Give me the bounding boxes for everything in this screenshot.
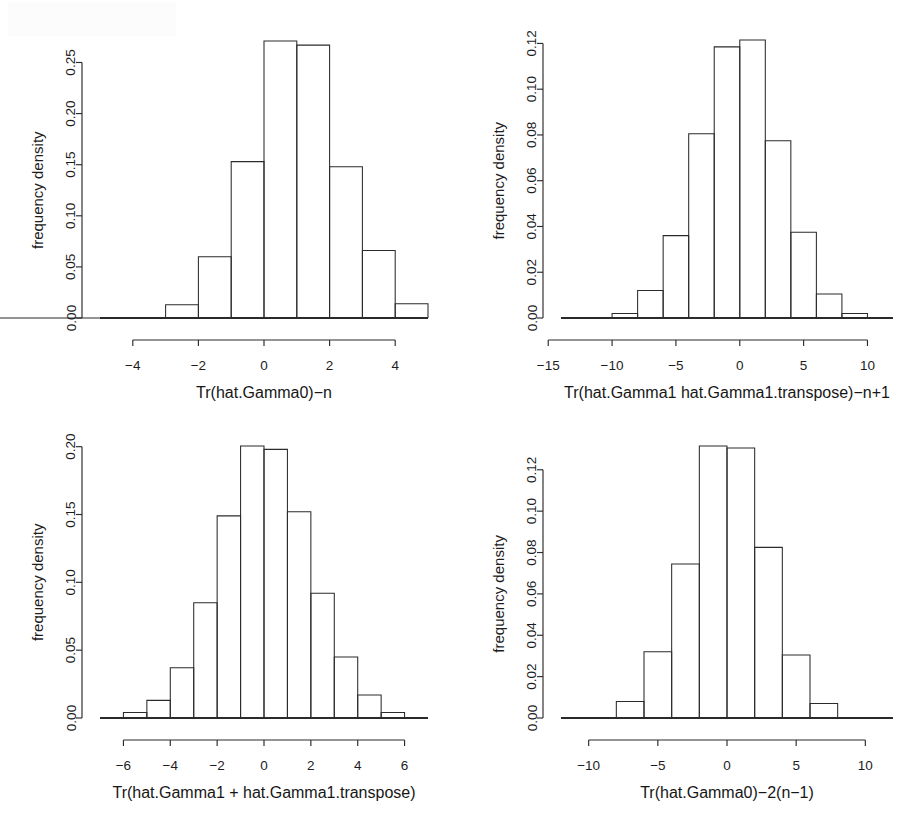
histogram-bars [561, 446, 893, 718]
x-axis-title: Tr(hat.Gamma1 hat.Gamma1.transpose)−n+1 [564, 384, 890, 401]
x-axis-tick-label: 0 [260, 758, 268, 773]
y-axis-tick-label: 0.20 [64, 100, 79, 126]
x-axis-title: Tr(hat.Gamma1 + hat.Gamma1.transpose) [112, 784, 415, 801]
x-axis: −10−50510 [577, 740, 873, 773]
y-axis-tick-label: 0.08 [525, 539, 540, 565]
x-axis-tick-label: 5 [800, 358, 808, 373]
histogram-bar [362, 251, 395, 318]
histogram-bar [166, 305, 199, 318]
y-axis: 0.000.020.040.060.080.100.12 [525, 457, 544, 731]
y-axis-tick-label: 0.15 [64, 501, 79, 527]
x-axis-tick-label: −15 [537, 358, 560, 373]
x-axis-tick-label: −4 [163, 758, 179, 773]
x-axis-tick-label: −5 [668, 358, 683, 373]
histogram-bar [727, 448, 755, 718]
histogram-bar [616, 701, 644, 718]
histogram-bar [358, 695, 381, 718]
histogram-bar [395, 304, 428, 318]
histogram-panel-top-right: 0.000.020.040.060.080.100.12frequency de… [459, 0, 918, 411]
plot-canvas-bottom-right: 0.000.020.040.060.080.100.12frequency de… [459, 411, 918, 822]
histogram-bar [663, 236, 689, 318]
histogram-bar [194, 603, 217, 718]
x-axis-tick-label: −10 [601, 358, 624, 373]
plot-canvas-top-right: 0.000.020.040.060.080.100.12frequency de… [459, 0, 918, 411]
y-axis-title: frequency density [30, 523, 47, 641]
histogram-bar [782, 655, 810, 718]
x-axis-tick-label: 2 [307, 758, 315, 773]
y-axis-tick-label: 0.12 [525, 457, 540, 483]
x-axis-tick-label: −6 [116, 758, 131, 773]
x-axis-tick-label: −10 [577, 758, 600, 773]
y-axis-tick-label: 0.06 [525, 168, 540, 194]
histogram-bar [287, 512, 310, 718]
y-axis-tick-label: 0.10 [64, 569, 79, 595]
y-axis: 0.000.050.100.150.200.25 [64, 49, 83, 331]
histogram-bar [264, 41, 297, 318]
y-axis-tick-label: 0.04 [525, 213, 540, 240]
histogram-bar [147, 700, 170, 718]
y-axis-tick-label: 0.00 [525, 705, 540, 731]
x-axis-tick-label: 4 [391, 358, 399, 373]
histogram-bar [714, 47, 740, 318]
histogram-bar [264, 449, 287, 718]
y-axis-tick-label: 0.10 [525, 76, 540, 102]
y-axis-tick-label: 0.06 [525, 581, 540, 607]
y-axis-tick-label: 0.04 [525, 622, 540, 649]
x-axis-tick-label: 0 [736, 358, 744, 373]
histogram-bar [297, 45, 330, 318]
y-axis-tick-label: 0.10 [525, 498, 540, 524]
histogram-bar [241, 446, 264, 718]
histogram-bar [644, 652, 672, 718]
y-axis-title: frequency density [30, 131, 47, 249]
y-axis-tick-label: 0.00 [64, 305, 79, 331]
x-axis-tick-label: −2 [209, 758, 224, 773]
histogram-bars [100, 446, 428, 718]
histogram-bar [740, 40, 766, 318]
x-axis-tick-label: 10 [860, 358, 875, 373]
y-axis-tick-label: 0.10 [64, 203, 79, 229]
x-axis-tick-label: 2 [326, 358, 334, 373]
y-axis-tick-label: 0.20 [64, 434, 79, 460]
plot-canvas-top-left: 0.000.050.100.150.200.25frequency densit… [0, 0, 459, 411]
x-axis-tick-label: −5 [650, 758, 665, 773]
x-axis: −6−4−20246 [116, 740, 409, 773]
histogram-bar [330, 167, 363, 318]
x-axis: −15−10−50510 [537, 340, 875, 373]
histogram-bar [816, 294, 842, 318]
y-axis: 0.000.050.100.150.20 [64, 434, 83, 732]
x-axis-tick-label: 0 [723, 758, 731, 773]
histogram-bar [765, 141, 791, 318]
x-axis-tick-label: 10 [858, 758, 873, 773]
x-axis-tick-label: −4 [125, 358, 141, 373]
figure-panel-grid: 0.000.050.100.150.200.25frequency densit… [0, 0, 918, 822]
x-axis-tick-label: 4 [354, 758, 362, 773]
histogram-bar [231, 162, 264, 318]
y-axis-tick-label: 0.05 [64, 637, 79, 663]
y-axis-tick-label: 0.15 [64, 152, 79, 178]
y-axis-tick-label: 0.02 [525, 663, 540, 689]
y-axis: 0.000.020.040.060.080.100.12 [525, 30, 544, 331]
histogram-bar [638, 291, 664, 318]
y-axis-tick-label: 0.00 [64, 705, 79, 731]
histogram-bar [755, 547, 783, 718]
y-axis-title: frequency density [491, 121, 508, 239]
histogram-bar [170, 668, 193, 718]
x-axis-tick-label: 0 [260, 358, 268, 373]
histogram-bar [791, 232, 817, 318]
y-axis-tick-label: 0.02 [525, 259, 540, 285]
x-axis: −4−2024 [125, 340, 399, 373]
histogram-bar [672, 564, 700, 718]
histogram-panel-bottom-right: 0.000.020.040.060.080.100.12frequency de… [459, 411, 918, 822]
histogram-bar [334, 657, 357, 718]
histogram-bar [699, 446, 727, 718]
x-axis-title: Tr(hat.Gamma0)−2(n−1) [640, 784, 814, 801]
histogram-bar [689, 134, 715, 318]
histogram-bar [810, 704, 838, 718]
x-axis-tick-label: −2 [191, 358, 206, 373]
histogram-bars [561, 40, 893, 318]
histogram-bar [311, 593, 334, 718]
y-axis-tick-label: 0.05 [64, 254, 79, 280]
y-axis-tick-label: 0.25 [64, 49, 79, 75]
plot-canvas-bottom-left: 0.000.050.100.150.20frequency density−6−… [0, 411, 459, 822]
histogram-bar [198, 257, 231, 318]
